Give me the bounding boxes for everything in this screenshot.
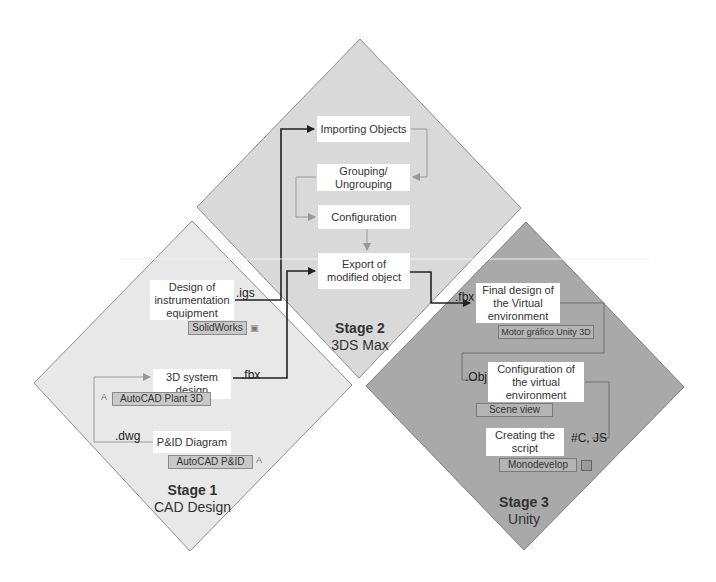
- solidworks-icon: ▣: [250, 323, 259, 333]
- step-export-modified-object: Export of modified object: [318, 253, 410, 289]
- stage1-label: Stage 1 CAD Design: [150, 482, 235, 516]
- stage2-subtitle: 3DS Max: [320, 337, 400, 354]
- stage2-title: Stage 2: [320, 320, 400, 337]
- ext-obj: .Obj: [465, 370, 487, 384]
- ext-csharp-js: #C, JS: [571, 431, 607, 445]
- tool-solidworks: SolidWorks: [188, 321, 247, 335]
- workflow-diagram: Importing Objects Grouping/ Ungrouping C…: [0, 0, 716, 582]
- step-importing-objects: Importing Objects: [317, 116, 410, 142]
- autocad-icon: A: [256, 455, 262, 465]
- ext-fbx-stage3: .fbx: [455, 290, 474, 304]
- step-configuration-virtual-env: Configuration of the virtual environment: [488, 362, 584, 402]
- tool-unity-3d: Motor gráfico Unity 3D: [498, 325, 594, 339]
- tool-autocad-plant-3d: AutoCAD Plant 3D: [112, 392, 211, 406]
- step-grouping-ungrouping: Grouping/ Ungrouping: [317, 164, 410, 191]
- step-pid-diagram: P&ID Diagram: [153, 431, 231, 453]
- tool-autocad-pid: AutoCAD P&ID: [168, 455, 253, 469]
- autocad-icon: A: [101, 392, 107, 402]
- stage1-subtitle: CAD Design: [150, 499, 235, 516]
- step-design-instrumentation: Design of instrumentation equipment: [150, 280, 234, 320]
- tool-scene-view: Scene view: [476, 403, 553, 417]
- step-creating-script: Creating the script: [486, 428, 564, 456]
- step-configuration: Configuration: [318, 205, 410, 229]
- monodevelop-icon: [581, 460, 592, 471]
- stage2-label: Stage 2 3DS Max: [320, 320, 400, 354]
- stage3-subtitle: Unity: [484, 511, 564, 528]
- ext-dwg: .dwg: [115, 429, 140, 443]
- tool-monodevelop: Monodevelop: [499, 458, 577, 472]
- stage3-label: Stage 3 Unity: [484, 494, 564, 528]
- ext-igs: .igs: [236, 286, 255, 300]
- diagram-shapes: [0, 0, 716, 582]
- ext-fbx-stage1: .fbx: [241, 368, 260, 382]
- stage1-title: Stage 1: [150, 482, 235, 499]
- step-final-design-virtual-env: Final design of the Virtual environment: [476, 283, 560, 323]
- stage3-title: Stage 3: [484, 494, 564, 511]
